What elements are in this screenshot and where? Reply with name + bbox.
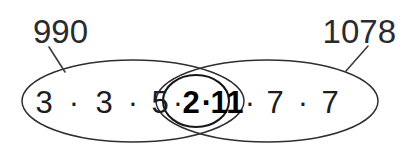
leader-line-990 [49,47,65,72]
callout-label-990: 990 [33,13,88,50]
venn-diagram-svg: 990 1078 3 · 3 · 5 · 2 · 11 · 7 · 7 [0,0,411,153]
factor-left-3a: 3 [35,85,52,120]
separator-dot-1: · [69,85,79,120]
separator-dot-6: · [298,85,308,120]
separator-dot-2: · [128,85,138,120]
separator-dot-5: · [245,85,255,120]
callout-label-1078: 1078 [323,13,396,50]
factor-left-3b: 3 [95,85,112,120]
factor-left-5: 5 [151,85,168,120]
prime-factorization-venn-figure: 990 1078 3 · 3 · 5 · 2 · 11 · 7 · 7 [0,0,411,153]
factor-shared-2: 2 [182,85,199,120]
factor-right-7a: 7 [266,85,283,120]
factor-shared-11: 11 [211,85,244,120]
factor-right-7b: 7 [321,85,338,120]
